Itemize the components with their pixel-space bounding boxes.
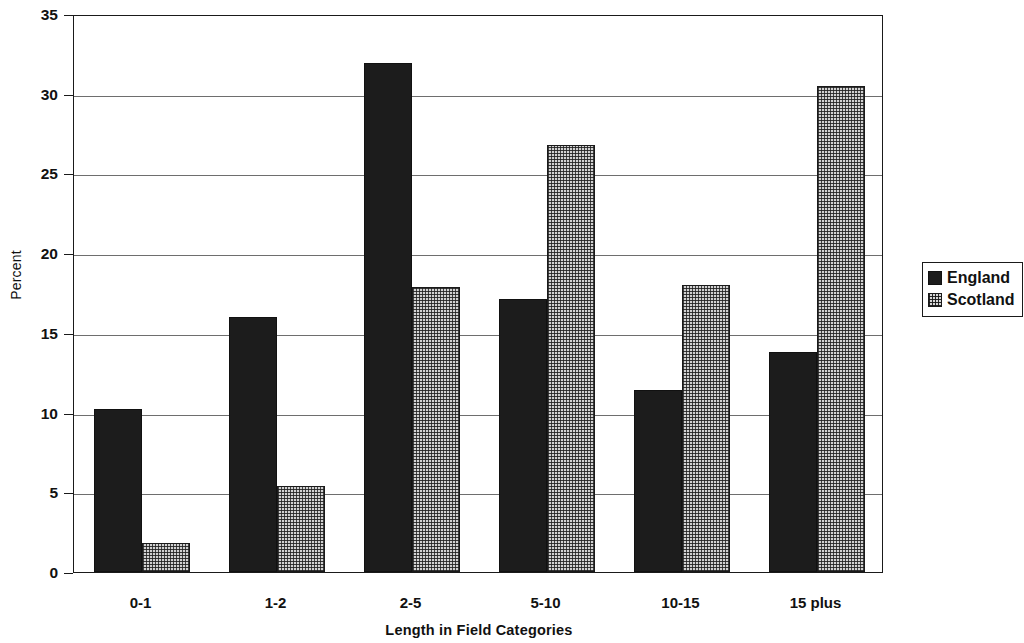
y-axis-tick-label: 0 [0,564,58,582]
bar-scotland-1-2 [277,486,325,572]
plot-inner [74,16,882,572]
gridline [74,255,882,256]
x-axis-tick-label: 0-1 [71,594,211,611]
bar-england-1-2 [229,317,277,572]
y-axis-tick [64,174,73,175]
y-axis-tick-label: 15 [0,325,58,343]
legend-item-england: England [928,267,1015,289]
solid-black-swatch [928,271,942,285]
x-axis-tick-label: 5-10 [476,594,616,611]
x-axis-title: Length in Field Categories [0,622,958,638]
y-axis-tick-label: 10 [0,405,58,423]
y-axis-tick [64,493,73,494]
y-axis-tick-label: 25 [0,165,58,183]
y-axis-tick [64,573,73,574]
x-axis-tick-label: 2-5 [341,594,481,611]
bar-scotland-0-1 [142,543,190,572]
gridline [74,175,882,176]
legend-item-scotland: Scotland [928,289,1015,311]
bar-england-0-1 [94,409,142,572]
gridline [74,494,882,495]
bar-scotland-15-plus [817,86,865,572]
y-axis-tick [64,334,73,335]
bar-scotland-5-10 [547,145,595,572]
legend-label: England [947,269,1010,287]
x-axis-tick-label: 10-15 [611,594,751,611]
y-axis-tick-label: 5 [0,484,58,502]
bar-england-2-5 [364,63,412,572]
x-axis-tick-label: 15 plus [746,594,886,611]
plot-area [73,15,883,573]
bar-chart-figure: Percent 05101520253035 0-11-22-55-1010-1… [0,0,1024,643]
y-axis-tick-label: 20 [0,245,58,263]
chart-legend: EnglandScotland [922,262,1023,317]
y-axis-tick [64,414,73,415]
bar-england-15-plus [769,352,817,572]
bar-scotland-10-15 [682,285,730,572]
y-axis-tick-label: 30 [0,86,58,104]
y-axis-tick-label: 35 [0,6,58,24]
gridline [74,96,882,97]
dotted-pattern-swatch [928,293,942,307]
gridline [74,415,882,416]
bar-scotland-2-5 [412,287,460,572]
y-axis-tick [64,95,73,96]
y-axis-tick [64,254,73,255]
y-axis-tick [64,15,73,16]
legend-label: Scotland [947,291,1015,309]
x-axis-tick-label: 1-2 [206,594,346,611]
bar-england-10-15 [634,390,682,572]
y-axis-title: Percent [8,215,24,335]
bar-england-5-10 [499,299,547,572]
gridline [74,335,882,336]
